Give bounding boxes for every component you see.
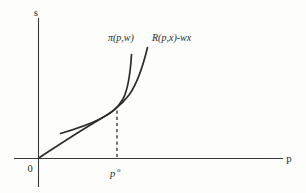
y-axis-label: s bbox=[34, 6, 38, 18]
profit-function-curve bbox=[61, 55, 132, 134]
profit-function-curve-label: π(p,w) bbox=[108, 32, 135, 44]
economics-diagram: s p 0 p o π(p,w) R(p,x)-wx bbox=[0, 0, 306, 193]
x-tick-label-p0: p o bbox=[109, 166, 121, 179]
restricted-profit-curve-label: R(p,x)-wx bbox=[151, 32, 192, 44]
x-tick-label-superscript: o bbox=[117, 166, 121, 174]
origin-label: 0 bbox=[27, 163, 32, 174]
x-axis-label: p bbox=[286, 152, 292, 164]
diagram-canvas: s p 0 p o π(p,w) R(p,x)-wx bbox=[0, 0, 306, 193]
x-tick-label-base: p bbox=[109, 168, 115, 179]
